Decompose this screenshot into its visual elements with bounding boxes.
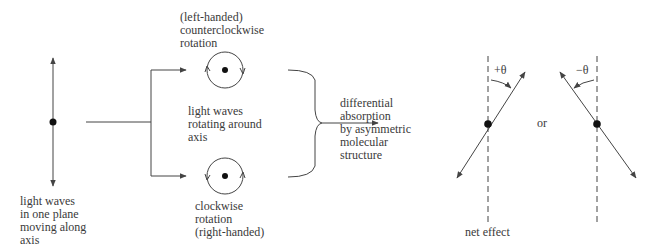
plane-light-label: light waves in one plane moving along ax… — [20, 195, 86, 247]
absorption-label: differential absorption by asymmetric mo… — [340, 97, 411, 162]
optical-rotation-diagram — [0, 0, 654, 248]
or-label: or — [537, 117, 547, 130]
splitter-connector — [86, 70, 186, 176]
counterclockwise-circle-icon — [205, 52, 245, 88]
net-effect-label: net effect — [465, 226, 510, 239]
left-handed-label: (left-handed) counterclockwise rotation — [180, 11, 264, 50]
net-effect-negative — [560, 56, 636, 222]
minus-theta-label: −θ — [576, 64, 589, 77]
right-handed-label: clockwise rotation (right-handed) — [195, 200, 264, 239]
net-effect-positive — [457, 56, 525, 222]
rotating-label: light waves rotating around axis — [188, 105, 262, 144]
axis-dot — [50, 119, 57, 126]
plus-theta-label: +θ — [494, 64, 507, 77]
clockwise-circle-icon — [205, 158, 245, 194]
plane-polarized-arrow — [50, 58, 57, 186]
